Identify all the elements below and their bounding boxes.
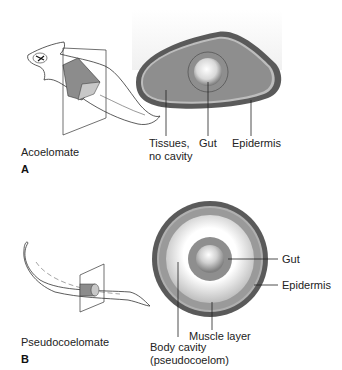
tissues-label-line2: no cavity xyxy=(149,150,192,163)
diagram-canvas xyxy=(0,0,342,370)
tissues-label: Tissues, xyxy=(149,137,190,150)
body-cavity-label-line2: (pseudocoelom) xyxy=(150,354,229,367)
gut-label-b: Gut xyxy=(282,253,300,266)
body-cavity-label: Body cavity xyxy=(150,341,206,354)
panel-letter-a: A xyxy=(21,163,29,175)
pseudocoelomate-cross-section xyxy=(152,201,278,337)
roundworm-illustration xyxy=(24,242,150,312)
epidermis-label-a: Epidermis xyxy=(232,137,281,150)
panel-letter-b: B xyxy=(21,353,29,365)
acoelomate-label: Acoelomate xyxy=(21,146,79,159)
gut-label-a: Gut xyxy=(199,137,217,150)
pseudocoelomate-label: Pseudocoelomate xyxy=(21,336,109,349)
epidermis-label-b: Epidermis xyxy=(282,279,331,292)
